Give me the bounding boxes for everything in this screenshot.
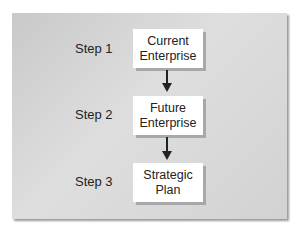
arrow-down-icon — [166, 137, 168, 158]
box-line: Strategic — [143, 168, 192, 183]
current-enterprise-box: Current Enterprise — [133, 29, 203, 68]
box-line: Future — [150, 101, 186, 116]
box-line: Enterprise — [140, 116, 197, 131]
box-line: Enterprise — [140, 49, 197, 64]
box-line: Plan — [155, 183, 180, 198]
step-3-label: Step 3 — [75, 174, 113, 189]
step-2-label: Step 2 — [75, 107, 113, 122]
arrow-down-icon — [166, 70, 168, 90]
step-1-label: Step 1 — [75, 41, 113, 56]
future-enterprise-box: Future Enterprise — [133, 96, 203, 135]
strategic-plan-box: Strategic Plan — [133, 163, 203, 202]
box-line: Current — [147, 34, 189, 49]
